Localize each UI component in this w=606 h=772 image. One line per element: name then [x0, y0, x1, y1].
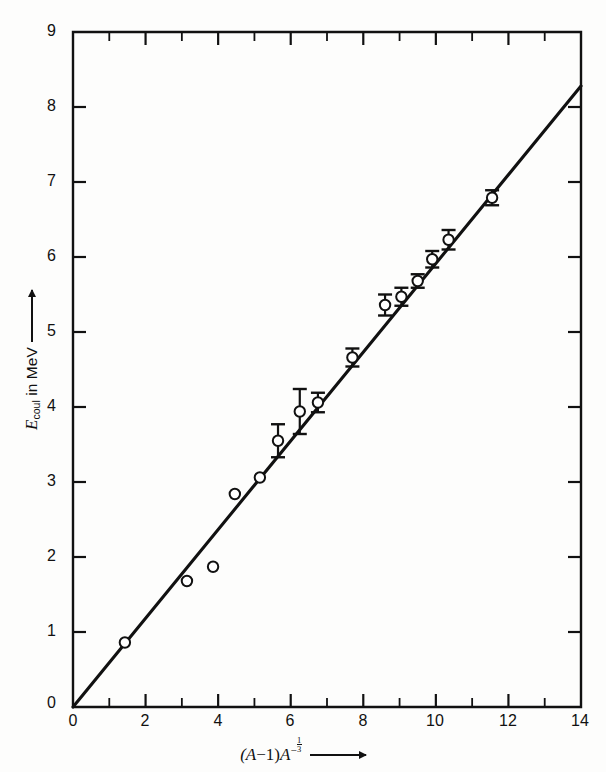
- data-point-marker: [230, 489, 240, 499]
- data-point-marker: [273, 436, 283, 446]
- axis-frame: [73, 32, 581, 707]
- plot-canvas: [0, 0, 606, 772]
- coulomb-energy-figure: Ecoul in MeV 9 8 7 6 5 4 3 2 1 0 0 2 4 6…: [0, 0, 606, 772]
- data-point-marker: [380, 300, 390, 310]
- data-point-marker: [427, 254, 437, 264]
- data-point-marker: [120, 637, 130, 647]
- data-point-marker: [255, 472, 265, 482]
- fit-line-group: [73, 86, 581, 707]
- data-point-marker: [396, 292, 406, 302]
- plot-border: [73, 32, 581, 707]
- data-point-marker: [182, 576, 192, 586]
- data-point-marker: [295, 406, 305, 416]
- data-point-marker: [487, 193, 497, 203]
- data-point-marker: [208, 562, 218, 572]
- data-point-marker: [313, 397, 323, 407]
- data-point-marker: [413, 276, 423, 286]
- axis-ticks: [73, 32, 581, 707]
- data-point-marker: [443, 235, 453, 245]
- least-squares-fit-line: [73, 86, 581, 707]
- data-point-marker: [347, 352, 357, 362]
